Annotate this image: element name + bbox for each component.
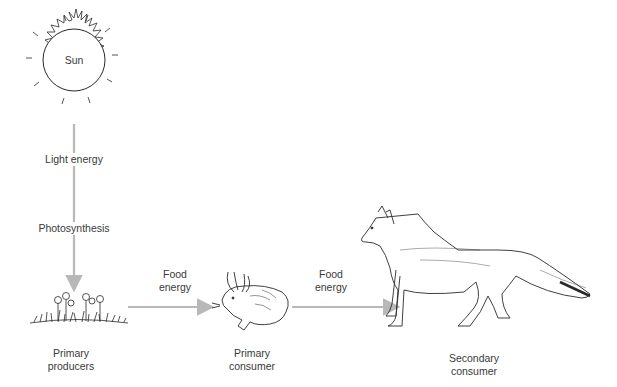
- secondary-consumer-label-line2: consumer: [436, 365, 512, 378]
- primary-consumer-label-line1: Primary: [217, 347, 287, 360]
- food-energy-label-2-line1: Food: [306, 268, 356, 281]
- primary-consumer-label-line2: consumer: [217, 360, 287, 373]
- primary-producers-label: Primary producers: [36, 347, 106, 373]
- food-energy-label-2: Food energy: [306, 268, 356, 294]
- secondary-consumer-label: Secondary consumer: [436, 352, 512, 378]
- photosynthesis-label: Photosynthesis: [30, 222, 118, 235]
- plants-icon: [30, 293, 128, 324]
- food-energy-label-1: Food energy: [150, 268, 200, 294]
- rabbit-icon: [212, 272, 288, 330]
- secondary-consumer-label-line1: Secondary: [436, 352, 512, 365]
- food-energy-label-2-line2: energy: [306, 281, 356, 294]
- primary-consumer-label: Primary consumer: [217, 347, 287, 373]
- primary-producers-label-line1: Primary: [36, 347, 106, 360]
- primary-producers-label-line2: producers: [36, 360, 106, 373]
- sun-label: Sun: [40, 54, 108, 67]
- food-energy-label-1-line2: energy: [150, 281, 200, 294]
- food-energy-label-1-line1: Food: [150, 268, 200, 281]
- light-energy-label: Light energy: [34, 153, 114, 166]
